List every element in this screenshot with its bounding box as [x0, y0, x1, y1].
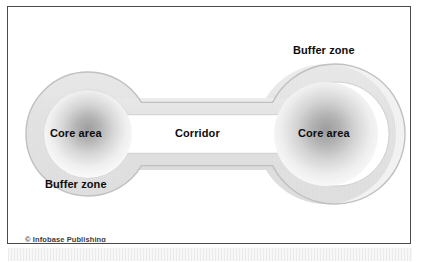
label-buffer-zone-bottom-left: Buffer zone	[45, 179, 107, 190]
publisher-credit: © Infobase Publishing	[25, 235, 106, 244]
label-buffer-zone-top-right: Buffer zone	[293, 45, 355, 56]
label-core-area-right: Core area	[298, 128, 350, 139]
figure-frame: Core area Core area Buffer zone Buffer z…	[7, 6, 411, 244]
label-core-area-left: Core area	[50, 128, 102, 139]
label-corridor: Corridor	[175, 128, 220, 139]
figure-root: Core area Core area Buffer zone Buffer z…	[0, 0, 424, 262]
bottom-texture-strip	[8, 248, 412, 261]
